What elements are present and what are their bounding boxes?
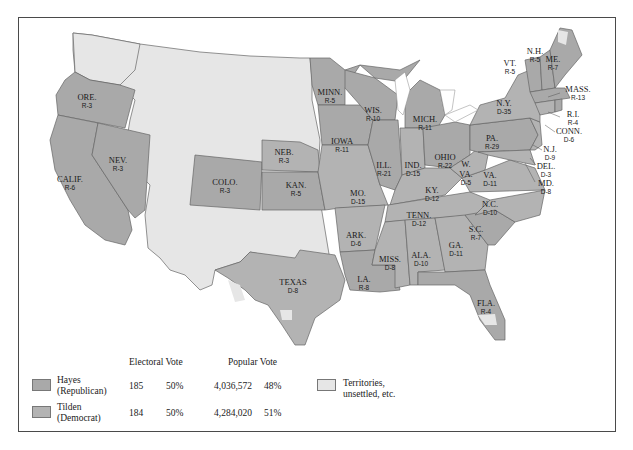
svg-text:R-3: R-3	[82, 102, 93, 109]
svg-text:WIS.: WIS.	[364, 105, 382, 115]
tilden-name: Tilden	[57, 402, 81, 413]
svg-text:R-5: R-5	[505, 68, 516, 75]
hayes-electoral-pct: 50%	[166, 381, 183, 392]
svg-text:KAN.: KAN.	[286, 180, 307, 190]
svg-text:COLO.: COLO.	[212, 177, 237, 187]
svg-text:DEL.: DEL.	[537, 161, 556, 171]
svg-text:ALA.: ALA.	[411, 250, 431, 260]
svg-text:D-15: D-15	[351, 198, 365, 205]
svg-text:D-8: D-8	[288, 287, 299, 294]
svg-text:N.C.: N.C.	[482, 199, 498, 209]
territories-label-line2: unsettled, etc.	[343, 389, 396, 400]
svg-text:CONN.: CONN.	[556, 126, 582, 136]
svg-text:ILL.: ILL.	[376, 160, 391, 170]
svg-text:R-8: R-8	[359, 284, 370, 291]
svg-text:ORE.: ORE.	[77, 92, 96, 102]
hayes-party: (Republican)	[57, 386, 107, 397]
svg-text:D-10: D-10	[483, 209, 497, 216]
svg-text:D-6: D-6	[564, 136, 575, 143]
svg-text:D-10: D-10	[414, 260, 428, 267]
hayes-swatch	[32, 379, 51, 391]
svg-text:TENN.: TENN.	[407, 210, 432, 220]
hayes-popular-pct: 48%	[264, 381, 281, 392]
svg-text:CALIF.: CALIF.	[57, 174, 83, 184]
svg-text:N.Y.: N.Y.	[496, 98, 511, 108]
svg-text:PA.: PA.	[486, 133, 498, 143]
svg-text:N.H.: N.H.	[527, 46, 544, 56]
territories-label-line1: Territories,	[343, 378, 385, 389]
tilden-swatch	[32, 406, 51, 418]
svg-text:KY.: KY.	[425, 185, 438, 195]
svg-text:MASS.: MASS.	[565, 84, 590, 94]
svg-text:VA.: VA.	[459, 169, 472, 179]
svg-text:MICH.: MICH.	[413, 114, 437, 124]
svg-text:R-3: R-3	[279, 157, 290, 164]
svg-text:D-5: D-5	[461, 179, 472, 186]
svg-text:R-5: R-5	[291, 190, 302, 197]
svg-text:R-7: R-7	[548, 64, 559, 71]
svg-text:R-7: R-7	[471, 234, 482, 241]
svg-text:R-4: R-4	[568, 119, 579, 126]
state-ri	[555, 99, 562, 112]
svg-text:MD.: MD.	[538, 178, 554, 188]
svg-text:R-5: R-5	[325, 97, 336, 104]
electoral-vote-header: Electoral Vote	[129, 357, 183, 368]
svg-text:D-12: D-12	[425, 195, 439, 202]
svg-text:R-29: R-29	[485, 143, 499, 150]
svg-text:D-8: D-8	[541, 188, 552, 195]
svg-text:NEV.: NEV.	[109, 155, 128, 165]
svg-text:D-9: D-9	[545, 154, 556, 161]
svg-text:R-22: R-22	[438, 162, 452, 169]
svg-text:FLA.: FLA.	[477, 298, 495, 308]
tilden-popular-pct: 51%	[264, 408, 281, 419]
svg-text:D-12: D-12	[412, 220, 426, 227]
svg-text:R-10: R-10	[366, 115, 380, 122]
hayes-electoral-votes: 185	[129, 381, 143, 392]
popular-vote-header: Popular Vote	[228, 357, 277, 368]
hayes-popular-votes: 4,036,572	[214, 381, 252, 392]
svg-text:R-21: R-21	[377, 170, 391, 177]
svg-text:D-6: D-6	[351, 240, 362, 247]
svg-text:IND.: IND.	[404, 160, 421, 170]
svg-text:TEXAS: TEXAS	[279, 277, 307, 287]
svg-text:D-35: D-35	[497, 108, 511, 115]
svg-text:GA.: GA.	[449, 240, 463, 250]
svg-text:VA.: VA.	[483, 170, 496, 180]
tilden-party: (Democrat)	[57, 413, 101, 424]
svg-text:R-5: R-5	[530, 56, 541, 63]
svg-text:LA.: LA.	[357, 274, 370, 284]
hayes-name: Hayes	[57, 375, 81, 386]
svg-text:D-11: D-11	[449, 250, 463, 257]
svg-text:IOWA: IOWA	[331, 136, 354, 146]
svg-text:D-8: D-8	[385, 264, 396, 271]
svg-text:MINN.: MINN.	[318, 87, 343, 97]
svg-text:OHIO: OHIO	[434, 152, 455, 162]
svg-text:R-3: R-3	[220, 187, 231, 194]
svg-text:MISS.: MISS.	[379, 254, 401, 264]
tilden-electoral-pct: 50%	[166, 408, 183, 419]
svg-text:VT.: VT.	[504, 58, 517, 68]
svg-text:R.I.: R.I.	[567, 109, 580, 119]
svg-text:N.J.: N.J.	[543, 144, 557, 154]
svg-text:W.: W.	[461, 159, 470, 169]
territories-swatch	[317, 379, 336, 391]
tilden-electoral-votes: 184	[129, 408, 143, 419]
svg-text:R-4: R-4	[481, 308, 492, 315]
svg-text:D-3: D-3	[541, 171, 552, 178]
svg-text:R-13: R-13	[571, 94, 585, 101]
svg-text:R-11: R-11	[418, 124, 432, 131]
svg-text:R-11: R-11	[335, 146, 349, 153]
svg-text:ME.: ME.	[546, 54, 561, 64]
svg-text:D-15: D-15	[406, 170, 420, 177]
svg-text:ARK.: ARK.	[346, 230, 366, 240]
svg-text:R-3: R-3	[113, 165, 124, 172]
svg-text:NEB.: NEB.	[274, 147, 293, 157]
svg-text:R-6: R-6	[65, 184, 76, 191]
svg-text:S.C.: S.C.	[469, 224, 484, 234]
svg-text:MO.: MO.	[350, 188, 366, 198]
svg-text:D-11: D-11	[483, 180, 497, 187]
tilden-popular-votes: 4,284,020	[214, 408, 252, 419]
